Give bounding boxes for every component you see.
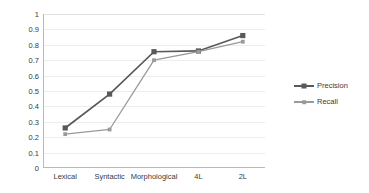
data-point-marker [63, 132, 67, 136]
line-chart: 10.90.80.70.60.50.40.30.20.10 LexicalSyn… [0, 0, 369, 193]
data-point-marker [241, 40, 245, 44]
data-point-marker [152, 58, 156, 62]
legend-marker-recall [294, 97, 314, 107]
x-axis-tick-label: 4L [194, 172, 202, 181]
x-axis-tick-labels: LexicalSyntacticMorphological4L2L [0, 172, 369, 192]
series-line-recall [65, 42, 243, 134]
data-point-marker [107, 91, 112, 96]
legend-item-recall: Recall [294, 96, 366, 108]
data-point-marker [63, 125, 68, 130]
x-axis-tick-label: Morphological [131, 172, 178, 181]
legend-item-precision: Precision [294, 80, 366, 92]
data-point-marker [197, 50, 201, 54]
chart-legend: Precision Recall [294, 80, 366, 112]
x-axis-tick-label: Lexical [54, 172, 77, 181]
x-axis-tick-label: 2L [239, 172, 247, 181]
data-point-marker [108, 128, 112, 132]
legend-label-precision: Precision [317, 81, 348, 91]
data-point-marker [151, 49, 156, 54]
data-point-marker [240, 33, 245, 38]
x-axis-tick-label: Syntactic [94, 172, 124, 181]
legend-label-recall: Recall [317, 97, 338, 107]
legend-marker-precision [294, 81, 314, 91]
